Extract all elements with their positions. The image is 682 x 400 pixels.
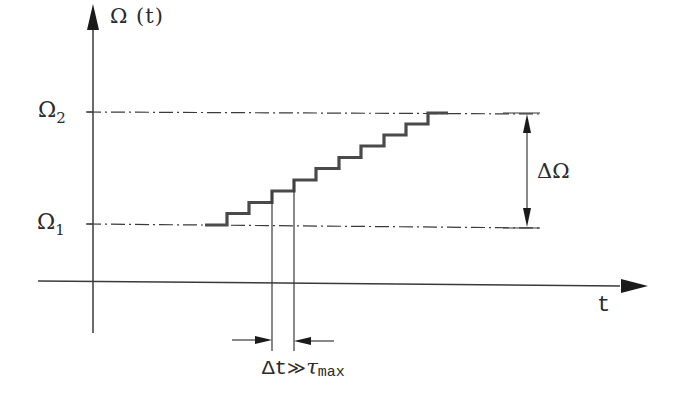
x-axis-label: t	[597, 293, 610, 318]
omega-1-label: Ω1	[37, 209, 65, 234]
omega-1-line	[87, 224, 540, 228]
arrow-down-icon	[523, 208, 531, 227]
delta-t-extension-lines	[272, 180, 294, 351]
delta-t-condition-label: Δt≫τmax	[262, 355, 345, 380]
x-axis-arrow-icon	[621, 279, 648, 293]
x-axis	[38, 279, 648, 293]
delta-t-dimension	[232, 336, 334, 345]
delta-omega-label: ΔΩ	[537, 159, 570, 183]
diagram-canvas	[0, 0, 682, 400]
y-axis-label: Ω (t)	[110, 4, 164, 28]
omega-2-label: Ω2	[38, 97, 66, 122]
omega-2-line	[87, 112, 540, 114]
omega-reference-lines	[87, 112, 540, 228]
arrow-up-icon	[523, 114, 531, 133]
y-axis	[87, 4, 99, 333]
delta-omega-dimension	[503, 113, 540, 228]
y-axis-arrow-icon	[87, 4, 99, 30]
speed-staircase	[205, 113, 448, 225]
